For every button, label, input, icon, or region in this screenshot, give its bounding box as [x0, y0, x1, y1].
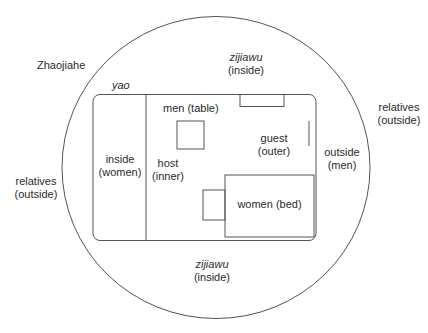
women-bed-label: women (bed) — [225, 198, 314, 211]
host-line2: (inner) — [148, 170, 188, 183]
top-furniture — [240, 95, 284, 107]
bottom-zone-label: zijiawu (inside) — [182, 258, 242, 284]
inside-women-line1: inside — [96, 153, 144, 166]
yao-label: yao — [112, 79, 130, 92]
top-zone-label: zijiawu (inside) — [218, 51, 274, 77]
left-relatives-line2: (outside) — [6, 188, 66, 201]
side-box — [203, 190, 225, 220]
outside-men-label: outside (men) — [316, 146, 368, 172]
right-relatives-label: relatives (outside) — [369, 101, 428, 127]
right-relatives-line2: (outside) — [369, 114, 428, 127]
left-relatives-line1: relatives — [6, 175, 66, 188]
right-relatives-line1: relatives — [369, 101, 428, 114]
top-zone-line2: (inside) — [218, 64, 274, 77]
bottom-zone-line1: zijiawu — [182, 258, 242, 271]
inside-women-line2: (women) — [96, 166, 144, 179]
outside-men-line2: (men) — [316, 159, 368, 172]
outside-men-line1: outside — [316, 146, 368, 159]
host-label: host (inner) — [148, 157, 188, 183]
place-label: Zhaojiahe — [37, 59, 85, 72]
guest-line2: (outer) — [252, 145, 296, 158]
table-box — [177, 121, 204, 149]
left-relatives-label: relatives (outside) — [6, 175, 66, 201]
guest-line1: guest — [252, 132, 296, 145]
inside-women-label: inside (women) — [96, 153, 144, 179]
top-zone-line1: zijiawu — [218, 51, 274, 64]
bottom-zone-line2: (inside) — [182, 271, 242, 284]
host-line1: host — [148, 157, 188, 170]
men-table-label: men (table) — [163, 102, 219, 115]
guest-label: guest (outer) — [252, 132, 296, 158]
